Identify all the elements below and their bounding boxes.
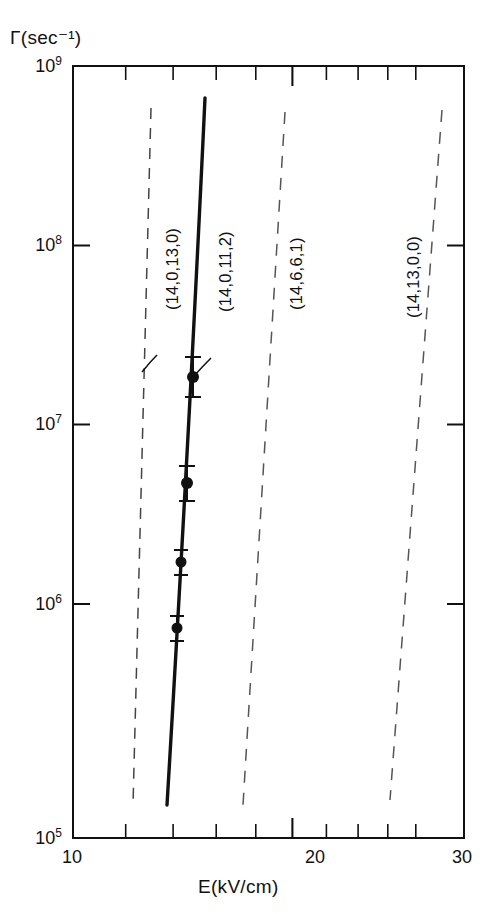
curve-14-13-0-0 xyxy=(390,110,442,800)
data-point-1 xyxy=(185,357,201,397)
plot-frame xyxy=(73,66,464,838)
data-marker xyxy=(181,477,193,489)
data-marker xyxy=(176,557,187,568)
top-axis-ticks xyxy=(126,66,416,86)
figure-container: Γ(sec⁻¹) E(kV/cm) 109 108 107 106 105 10… xyxy=(0,0,495,914)
axes-box xyxy=(73,66,464,838)
data-point-3 xyxy=(174,550,188,575)
curve-14-0-13-0 xyxy=(133,108,151,805)
data-marker xyxy=(172,623,183,634)
bottom-axis-ticks xyxy=(126,818,416,838)
data-point-4 xyxy=(170,616,184,641)
curve-14-0-11-2 xyxy=(167,98,205,805)
data-marker xyxy=(187,371,199,383)
left-axis-ticks xyxy=(73,246,90,605)
plot-svg xyxy=(0,0,495,914)
data-point-2 xyxy=(179,466,195,501)
curve-14-6-6-1 xyxy=(243,112,285,805)
right-axis-ticks xyxy=(447,246,464,605)
